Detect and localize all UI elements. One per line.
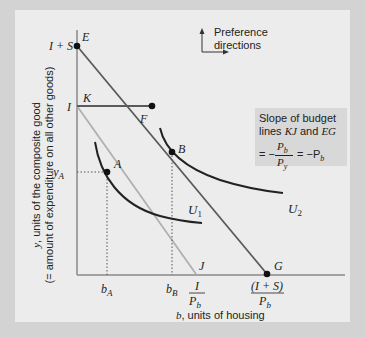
preference-directions-label: Preference directions bbox=[214, 26, 268, 52]
xtick-I-over-Pb: I Pb bbox=[188, 279, 205, 310]
label-E: E bbox=[81, 30, 90, 44]
point-F bbox=[149, 103, 156, 110]
point-B bbox=[169, 149, 176, 156]
svg-text:I: I bbox=[194, 279, 200, 293]
xtick-bA: bA bbox=[101, 282, 113, 298]
label-F: F bbox=[139, 112, 148, 126]
slope-line1: Slope of budget bbox=[259, 112, 336, 125]
point-E bbox=[74, 43, 81, 50]
ytick-I-plus-S: I + S bbox=[48, 39, 73, 53]
ytick-I: I bbox=[66, 100, 72, 114]
svg-text:Pb: Pb bbox=[258, 294, 271, 310]
y-axis-label-line2: (= amount of expenditure on all other go… bbox=[43, 60, 56, 290]
slope-line2: lines KJ and EG bbox=[259, 125, 336, 138]
y-axis-label: yy, units of the composite good, units o… bbox=[30, 60, 56, 290]
label-G: G bbox=[274, 259, 283, 273]
slope-equation: = − Pb Py = −Pb bbox=[259, 140, 336, 170]
x-axis-label: b, units of housing bbox=[176, 309, 265, 321]
budget-line-KJ bbox=[77, 106, 196, 274]
slope-annotation-box: Slope of budget lines KJ and EG = − Pb P… bbox=[255, 108, 347, 166]
label-K: K bbox=[82, 91, 92, 105]
arrow-up-icon bbox=[200, 28, 205, 34]
label-A: A bbox=[113, 157, 122, 171]
y-axis-var: y bbox=[30, 243, 42, 248]
label-U2: U2 bbox=[288, 201, 302, 218]
point-G bbox=[264, 271, 271, 278]
xtick-IS-over-Pb: (I + S) Pb bbox=[251, 279, 284, 310]
label-J: J bbox=[199, 259, 205, 273]
xtick-bB: bB bbox=[166, 282, 178, 298]
svg-text:Pb: Pb bbox=[188, 294, 201, 310]
y-axis-label-line1: , units of the composite good bbox=[30, 102, 42, 243]
label-B: B bbox=[178, 142, 186, 156]
svg-text:(I + S): (I + S) bbox=[251, 279, 283, 293]
point-A bbox=[104, 169, 111, 176]
label-U1: U1 bbox=[188, 202, 202, 219]
